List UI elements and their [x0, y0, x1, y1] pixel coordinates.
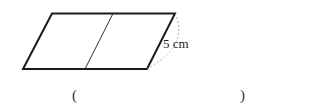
answer-open-paren: (: [72, 88, 77, 103]
side-length-label: 5 cm: [163, 36, 189, 51]
answer-close-paren: ): [240, 88, 245, 103]
answer-blank[interactable]: [90, 88, 230, 104]
divider-line: [85, 14, 113, 70]
